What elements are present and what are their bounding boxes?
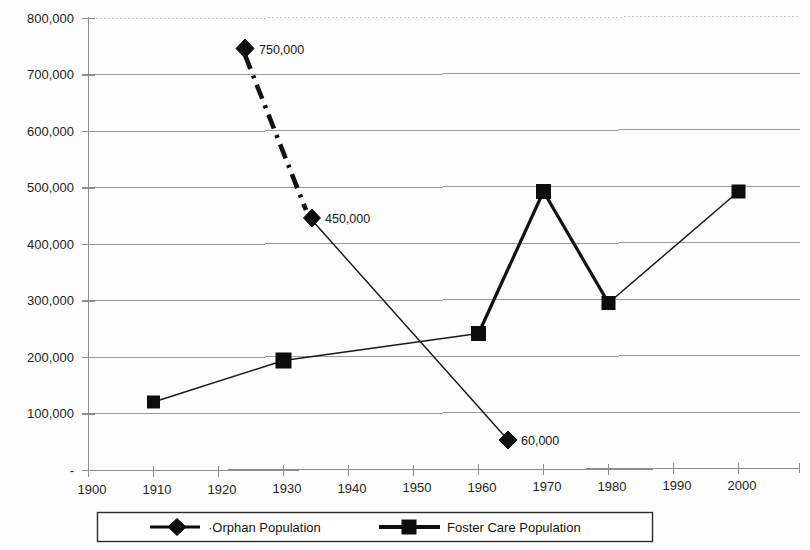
foster-marker-1980 — [602, 297, 615, 310]
y-tick-label-500000: 500,000 — [27, 180, 74, 195]
gridline-600000 — [88, 130, 800, 132]
y-axis-tick-labels: 800,000 700,000 600,000 500,000 400,000 … — [27, 11, 74, 478]
x-tick-label-2000: 2000 — [728, 478, 757, 493]
chart-legend: ·Orphan Population Foster Care Populatio… — [98, 513, 653, 542]
legend-label-foster: Foster Care Population — [447, 520, 581, 535]
x-tick-label-1950: 1950 — [403, 480, 432, 495]
x-tick-label-1900: 1900 — [78, 482, 107, 497]
chart-container: 800,000 700,000 600,000 500,000 400,000 … — [0, 0, 810, 550]
y-tick-label-400000: 400,000 — [27, 237, 74, 252]
y-tick-label-800000: 800,000 — [27, 11, 74, 26]
foster-marker-1970 — [537, 185, 551, 199]
orphan-marker-1930 — [304, 209, 321, 227]
y-tick-label-600000: 600,000 — [27, 124, 74, 139]
x-axis-tick-labels: 1900 1910 1920 1930 1940 1950 1960 1970 … — [78, 478, 757, 497]
orphan-value-label-1960: 60,000 — [521, 434, 559, 448]
x-tick-label-1930: 1930 — [273, 481, 302, 496]
x-tick-label-1940: 1940 — [338, 481, 367, 496]
gridline-300000 — [88, 299, 800, 301]
y-tick-label-300000: 300,000 — [27, 293, 74, 308]
foster-marker-1910 — [148, 396, 160, 408]
orphan-segment-1920-1930-dashdot — [245, 55, 306, 210]
orphan-marker-1920 — [236, 39, 254, 58]
y-tick-label-0: - — [70, 463, 74, 478]
series-foster-care-population — [148, 185, 746, 409]
foster-marker-2000 — [732, 185, 745, 198]
foster-segment-1980-2000 — [609, 192, 739, 304]
gridline-700000 — [88, 73, 800, 75]
y-tick-label-700000: 700,000 — [27, 67, 74, 82]
x-tick-label-1920: 1920 — [208, 482, 237, 497]
gridline-100000 — [88, 412, 800, 414]
legend-square-icon — [402, 520, 416, 534]
foster-segment-1910-1930 — [154, 361, 284, 403]
foster-segment-1970-1980 — [544, 192, 609, 304]
line-chart: 800,000 700,000 600,000 500,000 400,000 … — [0, 0, 810, 550]
x-axis — [88, 469, 800, 471]
x-tick-label-1910: 1910 — [143, 482, 172, 497]
legend-entry-foster[interactable]: Foster Care Population — [379, 520, 581, 535]
gridline-500000 — [88, 186, 800, 188]
x-tick-label-1970: 1970 — [533, 479, 562, 494]
gridlines — [88, 17, 800, 415]
x-tick-label-1990: 1990 — [663, 478, 692, 493]
y-tick-label-200000: 200,000 — [27, 350, 74, 365]
gridline-200000 — [88, 356, 800, 358]
legend-label-orphan: ·Orphan Population — [208, 520, 321, 535]
gridline-400000 — [88, 243, 800, 245]
foster-segment-1960-1970 — [479, 192, 544, 334]
foster-marker-1930 — [276, 353, 291, 368]
y-tick-label-100000: 100,000 — [27, 406, 74, 421]
orphan-value-label-1920: 750,000 — [259, 43, 304, 57]
x-tick-label-1960: 1960 — [468, 480, 497, 495]
orphan-value-label-1930: 450,000 — [325, 212, 370, 226]
legend-entry-orphan[interactable]: ·Orphan Population — [150, 519, 321, 536]
foster-marker-1960 — [472, 327, 486, 341]
x-tick-label-1980: 1980 — [598, 479, 627, 494]
axes — [82, 17, 800, 477]
gridline-800000 — [88, 17, 800, 19]
